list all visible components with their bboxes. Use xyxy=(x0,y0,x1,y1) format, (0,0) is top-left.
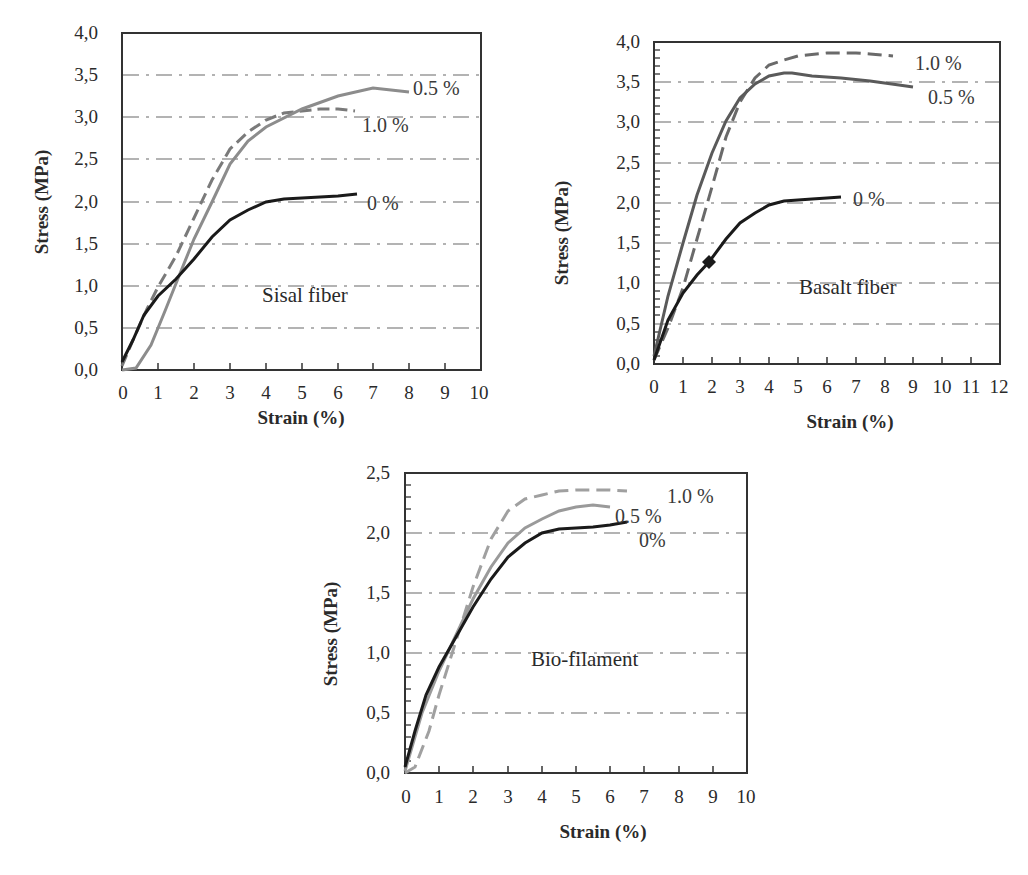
y-tick: 1,0 xyxy=(74,275,98,296)
series-label-0.5: 0.5 % xyxy=(413,77,460,99)
series-label-1.0: 1.0 % xyxy=(362,114,409,136)
x-tick: 2 xyxy=(189,382,199,403)
y-tick: 1,0 xyxy=(366,642,390,663)
x-tick: 4 xyxy=(764,376,774,397)
chart-sisal: 0,0 0,5 1,0 1,5 2,0 2,5 3,0 3,5 4,0 0 1 … xyxy=(31,22,489,429)
series-label-1.0: 1.0 % xyxy=(915,52,962,74)
series-0-percent xyxy=(405,522,627,767)
x-axis-title: Strain (%) xyxy=(559,821,646,843)
x-tick: 9 xyxy=(908,376,918,397)
series-0-percent xyxy=(122,194,357,362)
y-tick: 3,5 xyxy=(616,71,640,92)
series-label-0: 0 % xyxy=(853,188,885,210)
plot-frame xyxy=(405,473,747,773)
x-tick: 12 xyxy=(990,376,1009,397)
series-0.5-percent xyxy=(405,505,610,771)
y-tick: 3,5 xyxy=(74,64,98,85)
x-tick: 9 xyxy=(708,786,718,807)
series-label-0.5: 0.5 % xyxy=(615,505,662,527)
x-tick: 1 xyxy=(434,786,444,807)
x-tick: 0 xyxy=(118,382,128,403)
x-ticks xyxy=(158,363,445,370)
x-tick: 5 xyxy=(297,382,307,403)
y-tick: 2,5 xyxy=(74,148,98,169)
y-tick: 0,0 xyxy=(74,359,98,380)
x-tick: 8 xyxy=(880,376,890,397)
x-tick: 7 xyxy=(368,382,378,403)
series-label-1.0: 1.0 % xyxy=(667,485,714,507)
x-tick: 5 xyxy=(793,376,803,397)
x-tick: 5 xyxy=(571,786,581,807)
x-tick: 3 xyxy=(503,786,513,807)
x-tick: 1 xyxy=(678,376,688,397)
x-tick: 10 xyxy=(470,382,489,403)
x-tick: 0 xyxy=(649,376,659,397)
gridlines xyxy=(406,533,747,713)
y-tick: 1,0 xyxy=(616,272,640,293)
y-axis-title: Stress (MPa) xyxy=(551,181,573,286)
x-tick: 7 xyxy=(639,786,649,807)
x-tick: 10 xyxy=(737,786,756,807)
x-axis-title: Strain (%) xyxy=(257,407,344,429)
y-tick: 4,0 xyxy=(74,22,98,43)
series-label-0.5: 0.5 % xyxy=(928,86,975,108)
x-tick: 2 xyxy=(468,786,478,807)
x-tick: 8 xyxy=(404,382,414,403)
series-label-0: 0% xyxy=(639,529,666,551)
x-tick: 6 xyxy=(333,382,343,403)
y-tick: 1,5 xyxy=(74,233,98,254)
x-tick: 2 xyxy=(707,376,717,397)
x-tick-labels: 0 1 2 3 4 5 6 7 8 9 10 xyxy=(118,382,488,403)
x-tick: 3 xyxy=(225,382,235,403)
figure-canvas: 0,0 0,5 1,0 1,5 2,0 2,5 3,0 3,5 4,0 0 1 … xyxy=(0,0,1028,875)
x-tick: 8 xyxy=(674,786,684,807)
y-tick: 3,0 xyxy=(616,111,640,132)
x-tick: 4 xyxy=(537,786,547,807)
y-tick: 1,5 xyxy=(366,582,390,603)
series-label-0: 0 % xyxy=(367,192,399,214)
x-tick: 10 xyxy=(933,376,952,397)
y-tick: 2,5 xyxy=(616,152,640,173)
panel-label: Basalt fiber xyxy=(799,275,896,299)
x-tick: 6 xyxy=(822,376,832,397)
x-tick: 1 xyxy=(153,382,163,403)
y-tick: 0,0 xyxy=(616,353,640,374)
y-tick: 3,0 xyxy=(74,106,98,127)
x-tick: 4 xyxy=(261,382,271,403)
x-tick: 9 xyxy=(440,382,450,403)
x-ticks xyxy=(439,766,713,773)
y-tick: 2,0 xyxy=(616,192,640,213)
x-tick: 0 xyxy=(401,786,411,807)
x-ticks xyxy=(683,357,971,364)
x-tick: 6 xyxy=(605,786,615,807)
y-tick: 0,5 xyxy=(74,317,98,338)
x-tick: 11 xyxy=(962,376,980,397)
y-axis-title: Stress (MPa) xyxy=(320,582,342,687)
x-tick-labels: 0 1 2 3 4 5 6 7 8 9 10 xyxy=(401,786,755,807)
y-tick: 0,5 xyxy=(616,313,640,334)
y-tick-labels: 0,0 0,5 1,0 1,5 2,0 2,5 xyxy=(366,462,390,783)
x-tick: 3 xyxy=(735,376,745,397)
x-tick: 7 xyxy=(851,376,861,397)
x-axis-title: Strain (%) xyxy=(806,411,893,433)
chart-bio-filament: 0,0 0,5 1,0 1,5 2,0 2,5 0 1 2 3 4 5 6 7 … xyxy=(320,462,756,843)
y-tick: 4,0 xyxy=(616,31,640,52)
y-axis-title: Stress (MPa) xyxy=(31,150,53,255)
y-tick-labels: 0,0 0,5 1,0 1,5 2,0 2,5 3,0 3,5 4,0 xyxy=(74,22,98,380)
series-0.5-percent xyxy=(654,73,913,356)
y-tick: 1,5 xyxy=(616,232,640,253)
y-tick: 0,0 xyxy=(366,762,390,783)
y-tick: 0,5 xyxy=(366,702,390,723)
chart-basalt: 0,0 0,5 1,0 1,5 2,0 2,5 3,0 3,5 4,0 0 1 … xyxy=(551,31,1009,433)
y-tick: 2,5 xyxy=(366,462,390,483)
y-tick: 2,0 xyxy=(366,522,390,543)
panel-label: Bio-filament xyxy=(531,647,638,671)
y-tick: 2,0 xyxy=(74,191,98,212)
panel-label: Sisal fiber xyxy=(262,283,348,307)
y-tick-labels: 0,0 0,5 1,0 1,5 2,0 2,5 3,0 3,5 4,0 xyxy=(616,31,640,374)
x-tick-labels: 0 1 2 3 4 5 6 7 8 9 10 11 12 xyxy=(649,376,1008,397)
